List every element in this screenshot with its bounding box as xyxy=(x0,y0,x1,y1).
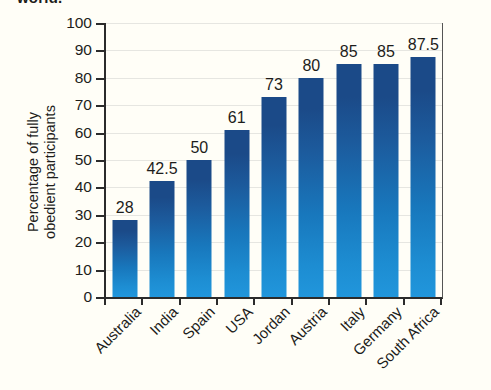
bar-chart: Percentage of fully obedient participant… xyxy=(0,0,491,390)
bar-value-label: 80 xyxy=(302,57,320,75)
x-axis-label: Austria xyxy=(285,303,330,348)
y-axis-tick-label: 100 xyxy=(66,14,92,32)
y-axis-tick xyxy=(96,50,104,52)
x-axis-label: India xyxy=(146,303,181,338)
bar xyxy=(149,181,174,297)
y-axis-tick xyxy=(96,105,104,107)
bar-slot: 50 xyxy=(181,23,218,297)
x-axis-tick xyxy=(440,297,442,305)
y-axis-tick xyxy=(96,160,104,162)
x-axis-label: Jordan xyxy=(249,303,293,347)
bar xyxy=(112,220,137,297)
y-axis-tick-label: 0 xyxy=(83,288,92,306)
bar-slot: 80 xyxy=(293,23,330,297)
x-axis-label: Spain xyxy=(179,303,218,342)
x-axis-label: Australia xyxy=(90,303,143,356)
y-axis-tick-label: 70 xyxy=(75,96,92,114)
bar xyxy=(261,97,286,297)
bar-value-label: 87.5 xyxy=(408,36,439,54)
bar-value-label: 73 xyxy=(265,76,283,94)
bar-slot: 42.5 xyxy=(143,23,180,297)
bar xyxy=(411,57,436,297)
bar xyxy=(299,78,324,297)
y-axis-tick xyxy=(96,215,104,217)
bar xyxy=(373,64,398,297)
y-axis-tick xyxy=(96,270,104,272)
y-axis-tick-label: 80 xyxy=(75,69,92,87)
y-axis-tick-label: 50 xyxy=(75,151,92,169)
bar-series: 2842.550617380858587.5 xyxy=(106,23,442,297)
bar-slot: 85 xyxy=(330,23,367,297)
bar-slot: 28 xyxy=(106,23,143,297)
bar-value-label: 28 xyxy=(116,199,134,217)
bar xyxy=(336,64,361,297)
y-axis-tick xyxy=(96,187,104,189)
x-axis-label: Italy xyxy=(336,303,367,334)
bar-slot: 87.5 xyxy=(405,23,442,297)
y-axis-tick xyxy=(96,297,104,299)
y-axis-tick xyxy=(96,23,104,25)
y-axis-tick-label: 60 xyxy=(75,124,92,142)
bar-slot: 61 xyxy=(218,23,255,297)
bar-slot: 85 xyxy=(367,23,404,297)
bar-value-label: 61 xyxy=(228,109,246,127)
bar-value-label: 85 xyxy=(340,43,358,61)
y-axis-tick-label: 30 xyxy=(75,206,92,224)
bar-slot: 73 xyxy=(255,23,292,297)
x-axis-labels: AustraliaIndiaSpainUSAJordanAustriaItaly… xyxy=(104,303,440,390)
y-axis-tick-label: 10 xyxy=(75,261,92,279)
bar-value-label: 85 xyxy=(377,43,395,61)
bar-value-label: 42.5 xyxy=(146,160,177,178)
y-axis-tick-label: 90 xyxy=(75,41,92,59)
y-axis-tick-label: 40 xyxy=(75,178,92,196)
bar xyxy=(224,130,249,297)
bar-value-label: 50 xyxy=(190,139,208,157)
y-axis: 0102030405060708090100 xyxy=(0,23,104,297)
y-axis-tick xyxy=(96,133,104,135)
bar xyxy=(187,160,212,297)
y-axis-tick xyxy=(96,78,104,80)
y-axis-tick-label: 20 xyxy=(75,233,92,251)
y-axis-tick xyxy=(96,242,104,244)
plot-area: 2842.550617380858587.5 xyxy=(104,23,443,299)
